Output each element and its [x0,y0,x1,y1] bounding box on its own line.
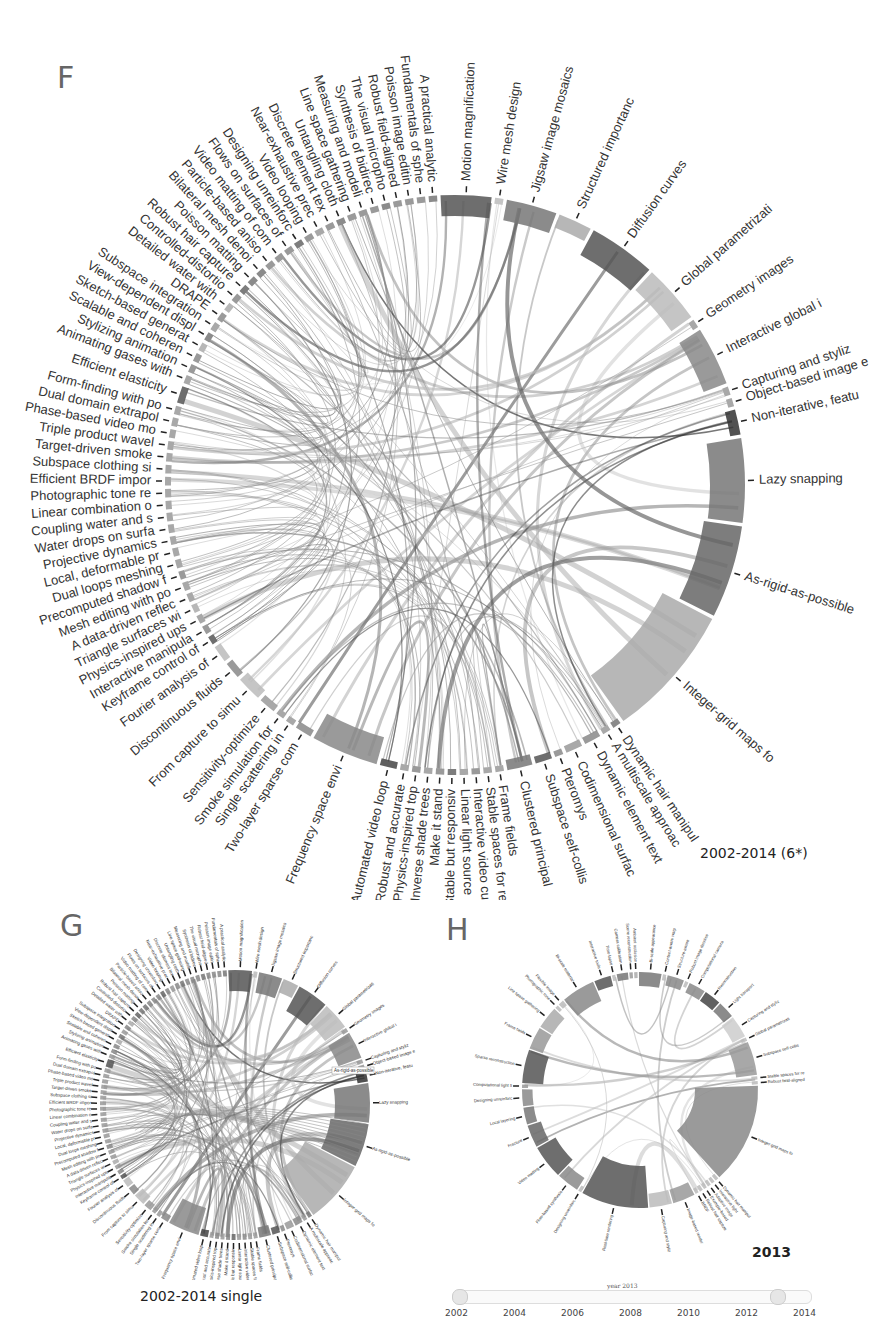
chord-label[interactable]: Frame fields [504,1021,527,1036]
chord-group-arc[interactable] [253,971,258,978]
chord-label[interactable]: Time-lapse [605,945,615,967]
chord-group-arc[interactable] [110,1154,117,1160]
chord-label[interactable]: Wire mesh design [493,80,524,185]
chord-group-arc[interactable] [336,217,346,226]
chord-group-arc[interactable] [555,215,591,242]
chord-group-arc[interactable] [356,1059,363,1065]
chord-group-arc[interactable] [286,716,296,726]
chord-group-arc[interactable] [129,1184,139,1194]
slider-handle-end[interactable] [770,1289,786,1305]
chord-group-arc[interactable] [228,970,252,992]
chord-group-arc[interactable] [195,975,200,982]
chord-group-arc[interactable] [166,512,173,521]
chord-group-arc[interactable] [100,1107,106,1111]
chord-label[interactable]: Capturing and styliz [746,999,780,1023]
chord-group-arc[interactable] [224,303,234,313]
chord-group-arc[interactable] [210,322,220,332]
chord-label[interactable]: Stable but responsiv [230,1248,235,1280]
chord-group-arc[interactable] [700,992,719,1010]
chord-group-arc[interactable] [448,769,457,775]
chord-group-arc[interactable] [109,1054,116,1060]
chord-group-arc[interactable] [313,714,384,764]
chord-label[interactable]: Clustered principal [265,1245,278,1280]
chord-label[interactable]: Linear light source [237,1249,243,1280]
chord-group-arc[interactable] [494,198,503,205]
chord-group-arc[interactable] [483,767,492,774]
chord-group-arc[interactable] [284,1220,294,1230]
chord-group-arc[interactable] [237,1234,241,1240]
chord-label[interactable]: Linear light source [458,789,476,896]
chord-group-arc[interactable] [242,1234,246,1240]
chord-group-arc[interactable] [100,1090,106,1094]
chord-label[interactable]: Fracture [507,1137,524,1148]
chord-group-arc[interactable] [276,709,286,719]
chord-label[interactable]: Image-based render [686,1208,705,1245]
chord-group-arc[interactable] [460,769,469,775]
chord-group-arc[interactable] [582,730,600,744]
chord-group-arc[interactable] [166,453,173,462]
chord-group-arc[interactable] [280,1225,286,1232]
chord-group-arc[interactable] [215,643,231,661]
chord-group-arc[interactable] [648,1190,672,1208]
chord-group-arc[interactable] [441,195,492,218]
chord-label[interactable]: Light transport [732,982,756,1004]
chord-label[interactable]: Integer-grid maps fo [680,678,778,766]
chord-group-arc[interactable] [752,1081,758,1085]
chord-label[interactable]: Wire mesh design [254,926,265,963]
chord-group-arc[interactable] [412,766,421,773]
chord-label[interactable]: Integer-grid maps fo [342,1197,376,1228]
chord-group-arc[interactable] [220,1233,224,1239]
chord-group-arc[interactable] [564,739,582,752]
chord-group-arc[interactable] [506,754,533,770]
chord-group-arc[interactable] [201,973,206,980]
chord-group-arc[interactable] [429,196,438,203]
chord-group-arc[interactable] [190,976,196,983]
chord-group-arc[interactable] [683,981,688,988]
chord-label[interactable]: Structure-aware [676,938,690,969]
chord-group-arc[interactable] [175,559,183,569]
chord-label[interactable]: As-rigid-as-possible [743,568,856,617]
chord-group-arc[interactable] [168,524,175,533]
chord-group-arc[interactable] [165,489,171,498]
chord-group-arc[interactable] [100,1096,106,1100]
chord-label[interactable]: Subspace self-collis [762,1042,799,1057]
chord-label[interactable]: Structured importanc [292,934,314,975]
chord-group-arc[interactable] [209,1232,214,1239]
chord-diagram-h[interactable]: Ambient occlusionBi-scale appearanceCont… [440,900,879,1270]
chord-group-arc[interactable] [188,364,197,374]
chord-group-arc[interactable] [232,1234,236,1240]
chord-group-arc[interactable] [417,197,426,204]
chord-label[interactable]: Efficient BRDF impor [49,1100,91,1106]
chord-label[interactable]: Camera calibration [613,928,623,964]
chord-group-arc[interactable] [580,230,649,290]
chord-group-arc[interactable] [296,722,314,737]
chord-group-arc[interactable] [600,725,610,735]
chord-group-arc[interactable] [186,592,195,602]
chord-label[interactable]: Diffusion curves [624,156,690,240]
chord-label[interactable]: Global parametrizati [341,981,375,1011]
slider-handle-start[interactable] [452,1289,468,1305]
chord-label[interactable]: Non-iterative, featu [375,1063,414,1076]
chord-group-arc[interactable] [165,477,171,486]
chord-group-arc[interactable] [726,398,734,408]
chord-label[interactable]: Motion magnification [458,62,478,182]
chord-group-arc[interactable] [522,1089,534,1106]
chord-label[interactable]: Motion magnification [238,919,245,961]
chord-group-arc[interactable] [172,547,180,557]
chord-group-arc[interactable] [553,748,563,757]
chord-label[interactable]: Reconstruction [717,965,739,991]
chord-group-arc[interactable] [253,1232,258,1239]
chord-group-arc[interactable] [165,465,171,474]
chord-label[interactable]: As-rigid-as-possible [372,1146,412,1163]
chord-group-arc[interactable] [534,752,552,764]
chord-group-arc[interactable] [617,973,629,982]
chord-label[interactable]: Photographic tone re [49,1106,91,1112]
chord-group-arc[interactable] [370,205,380,213]
chord-group-arc[interactable] [184,375,193,385]
chord-group-arc[interactable] [100,1101,106,1105]
chord-label[interactable]: Frequency space envi [282,763,344,886]
chord-group-arc[interactable] [169,429,176,438]
chord-group-arc[interactable] [629,972,633,978]
chord-group-arc[interactable] [707,438,745,523]
chord-group-arc[interactable] [108,1149,115,1155]
